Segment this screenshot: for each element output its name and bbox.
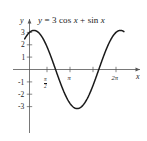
y-tick-label-minus-3: -3 [18,103,24,111]
equation-term-b: sin [88,15,99,25]
equation-plus: + [80,15,85,25]
figure-container: y = 3 cos x + sin x y x 3 2 1 -1 -2 -3 π… [0,0,147,141]
x-axis-arrowhead [136,68,141,72]
equation-equals: = [44,15,49,25]
y-axis-arrowhead [28,19,32,24]
x-axis-label: x [136,73,140,81]
y-tick-label-2: 2 [21,41,25,49]
fraction-denominator: 2 [44,84,48,89]
x-tick-label-pi: π [68,75,71,82]
equation-lhs: y [38,15,42,25]
y-tick-label-minus-2: -2 [18,91,24,99]
equation-term-a: 3 cos [52,15,71,25]
equation-var-1: x [74,15,78,25]
equation-annotation: y = 3 cos x + sin x [38,15,105,25]
y-tick-label-1: 1 [22,54,26,62]
x-tick-label-two-pi: 2π [112,75,119,82]
fraction-pi-over-2: π 2 [44,77,48,89]
y-tick-label-3: 3 [21,29,25,37]
x-tick-label-pi-over-2: π 2 [44,74,48,90]
equation-var-2: x [101,15,105,25]
y-axis-label: y [20,17,24,25]
y-tick-label-minus-1: -1 [18,79,24,87]
